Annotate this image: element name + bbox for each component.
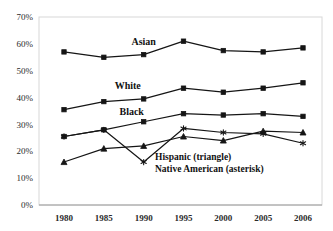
series-label-white: White	[115, 80, 142, 91]
data-point-asian-1985	[102, 55, 106, 59]
data-point-white-1990	[141, 97, 145, 101]
x-axis-tick-label: 1995	[175, 213, 194, 223]
y-axis-tick-label: 10%	[17, 173, 34, 183]
x-axis-tick-label: 1985	[95, 213, 114, 223]
y-axis-tick-label: 60%	[17, 39, 34, 49]
y-axis-tick-label: 20%	[17, 146, 34, 156]
plot-area-frame	[39, 17, 322, 205]
x-axis-tick-label: 2006	[294, 213, 313, 223]
y-axis-tick-label: 0%	[21, 200, 34, 210]
legend-entry-1: Hispanic (triangle)	[155, 152, 231, 163]
data-point-white-1985	[102, 99, 106, 103]
y-axis-tick-label: 30%	[17, 120, 34, 130]
series-label-asian: Asian	[131, 36, 156, 47]
legend-entry-2: Native American (asterisk)	[155, 164, 264, 175]
data-point-black-1990	[141, 120, 145, 124]
y-axis-tick-label: 40%	[17, 93, 34, 103]
data-point-asian-1980	[62, 50, 66, 54]
x-axis-tick-label: 1980	[55, 213, 74, 223]
data-point-white-1995	[181, 86, 185, 90]
data-point-asian-2000	[221, 48, 225, 52]
y-axis-tick-label: 50%	[17, 66, 34, 76]
x-axis-tick-label: 2005	[254, 213, 273, 223]
data-point-black-2000	[221, 113, 225, 117]
data-point-asian-2005	[261, 50, 265, 54]
y-axis-tick-label: 70%	[17, 12, 34, 22]
data-point-black-2006	[301, 114, 305, 118]
x-axis-tick-label: 2000	[214, 213, 233, 223]
x-axis-tick-label: 1990	[135, 213, 154, 223]
data-point-black-2005	[261, 111, 265, 115]
data-point-asian-1990	[141, 52, 145, 56]
data-point-asian-2006	[301, 46, 305, 50]
data-point-white-2000	[221, 90, 225, 94]
data-point-white-2006	[301, 81, 305, 85]
chart-container: 0%10%20%30%40%50%60%70% 1980198519901995…	[0, 0, 333, 231]
data-point-white-1980	[62, 107, 66, 111]
series-label-black: Black	[119, 106, 144, 117]
data-point-black-1995	[181, 111, 185, 115]
data-point-asian-1995	[181, 39, 185, 43]
data-point-white-2005	[261, 86, 265, 90]
line-chart: 0%10%20%30%40%50%60%70% 1980198519901995…	[0, 0, 333, 231]
